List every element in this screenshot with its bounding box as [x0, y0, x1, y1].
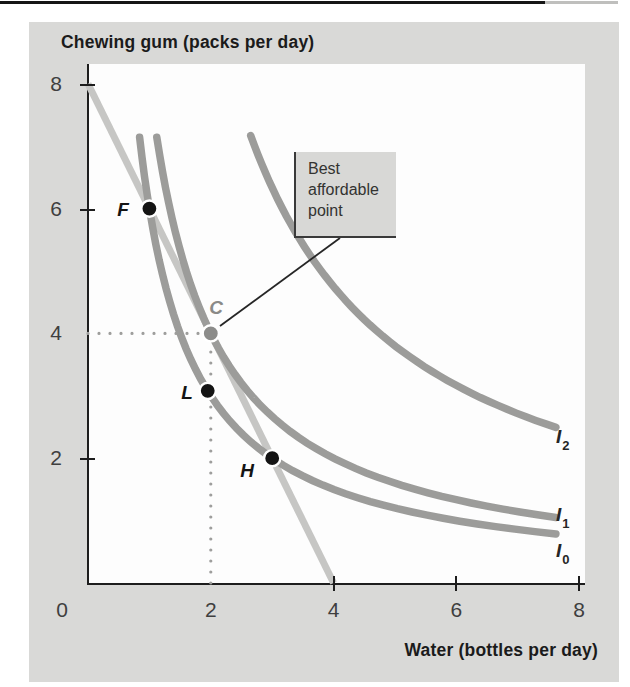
x-tick-8 [578, 576, 580, 591]
figure: Chewing gum (packs per day) 024688642 F … [0, 0, 630, 687]
x-tick-label-6: 6 [451, 598, 463, 622]
point-L [200, 383, 216, 399]
y-tick-label-8: 8 [50, 72, 62, 96]
x-tick-label-8: 8 [573, 598, 585, 622]
curve-label-I1: I1 [556, 504, 569, 529]
y-tick-2 [80, 458, 95, 460]
point-label-L: L [181, 382, 193, 404]
point-label-C: C [209, 297, 223, 319]
x-axis-line [87, 583, 585, 585]
curve-label-I2: I2 [556, 426, 569, 451]
top-rule-faded [545, 1, 618, 4]
point-H [264, 450, 280, 466]
x-axis-title: Water (bottles per day) [404, 640, 598, 661]
x-tick-4 [333, 576, 335, 591]
x-tick-label-2: 2 [205, 598, 217, 622]
y-tick-8 [80, 84, 95, 86]
y-tick-label-4: 4 [50, 321, 62, 345]
top-rule [0, 1, 545, 4]
x-tick-6 [455, 576, 457, 591]
point-label-H: H [240, 460, 254, 482]
x-tick-label-4: 4 [328, 598, 340, 622]
y-tick-label-2: 2 [50, 446, 62, 470]
callout-leader-line [220, 238, 340, 326]
point-F [141, 201, 157, 217]
y-tick-6 [80, 209, 95, 211]
point-C [203, 325, 219, 341]
point-label-F: F [117, 199, 129, 221]
y-tick-label-6: 6 [50, 197, 62, 221]
x-tick-label-0: 0 [56, 598, 68, 622]
best-affordable-point-callout: Best affordable point [294, 152, 396, 238]
chart-canvas [88, 64, 585, 583]
y-axis-title: Chewing gum (packs per day) [61, 32, 314, 53]
curve-label-I0: I0 [556, 540, 569, 565]
